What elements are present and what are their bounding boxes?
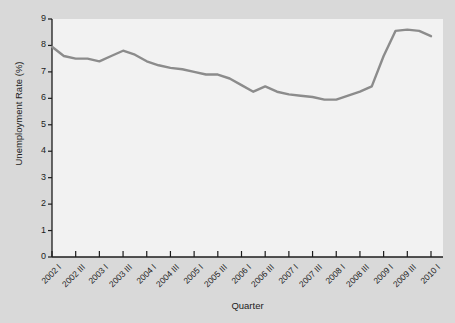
x-axis-tick-labels: 2002 I2002 III2003 I2003 III2004 I2004 I… <box>0 0 455 323</box>
x-axis-title: Quarter <box>52 300 443 311</box>
chart-figure: 0123456789 Unemployment Rate (%) 2002 I2… <box>0 0 455 323</box>
